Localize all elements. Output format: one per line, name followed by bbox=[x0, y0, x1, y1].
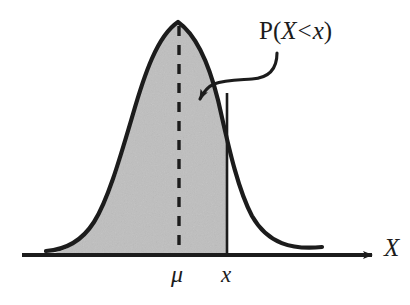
x-axis-label: X bbox=[384, 235, 399, 260]
probability-relation: < bbox=[297, 17, 313, 44]
mean-tick-label: μ bbox=[171, 262, 183, 286]
probability-label: P(X<x) bbox=[259, 18, 332, 43]
shaded-probability-region bbox=[40, 10, 240, 260]
distribution-plot-svg bbox=[0, 0, 410, 305]
cutoff-tick-label: x bbox=[221, 263, 231, 286]
probability-close-paren: ) bbox=[324, 17, 332, 44]
probability-variable: X bbox=[281, 17, 296, 44]
normal-distribution-figure: P(X<x) μ x X bbox=[0, 0, 410, 305]
probability-prefix: P bbox=[259, 17, 273, 44]
probability-open-paren: ( bbox=[273, 17, 281, 44]
probability-value: x bbox=[313, 17, 324, 44]
